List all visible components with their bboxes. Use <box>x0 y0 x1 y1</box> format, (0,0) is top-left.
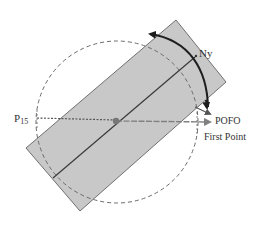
ny-label: Ny <box>199 47 213 59</box>
first-point-label: First Point <box>204 131 246 142</box>
p15-label-subscript: 15 <box>20 117 28 126</box>
rotation-arc-arrow-down <box>206 100 207 108</box>
pofo-label: POFO <box>215 115 241 126</box>
center-dot <box>113 118 119 124</box>
diagram-canvas: Ny P15 POFO First Point <box>0 0 262 227</box>
ny-point <box>195 55 197 57</box>
rotation-diagram: Ny P15 POFO First Point <box>0 0 262 227</box>
p15-label: P15 <box>14 112 28 126</box>
